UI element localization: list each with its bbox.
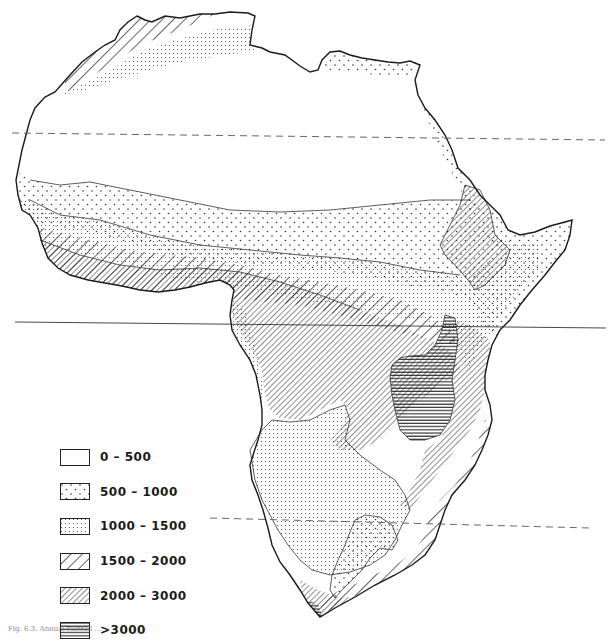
swatch-sparse-dots-icon [60, 483, 90, 500]
legend-label: 500 – 1000 [100, 485, 178, 499]
legend-label: >3000 [100, 623, 146, 637]
swatch-blank-icon [60, 449, 90, 466]
swatch-dense-dots-icon [60, 518, 90, 535]
swatch-wide-hatch-icon [60, 553, 90, 570]
figure-caption: Fig. 6.3. Annual rainfall ... [8, 625, 101, 633]
legend-label: 0 – 500 [100, 450, 151, 464]
legend-item-500-1000: 500 – 1000 [60, 475, 187, 510]
legend: 0 – 500 500 – 1000 1000 – 1500 1500 – 20… [60, 440, 187, 643]
legend-item-0-500: 0 – 500 [60, 440, 187, 475]
legend-label: 2000 – 3000 [100, 589, 187, 603]
legend-label: 1000 – 1500 [100, 519, 187, 533]
swatch-narrow-hatch-icon [60, 587, 90, 604]
legend-item-1500-2000: 1500 – 2000 [60, 544, 187, 579]
legend-item-1000-1500: 1000 – 1500 [60, 509, 187, 544]
legend-label: 1500 – 2000 [100, 554, 187, 568]
legend-item-2000-3000: 2000 – 3000 [60, 578, 187, 613]
